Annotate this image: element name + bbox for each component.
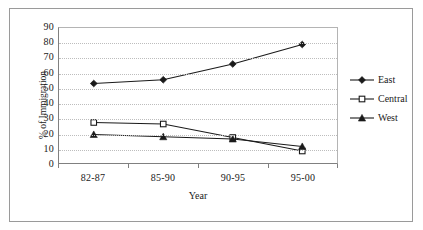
x-tick-label: 82-87 [58, 172, 128, 183]
data-point-marker [91, 120, 97, 126]
legend-label: West [376, 112, 398, 123]
x-tick-mark [268, 164, 269, 168]
data-point-marker [160, 76, 167, 83]
y-tick-label: 60 [14, 68, 54, 78]
y-tick-label: 20 [14, 129, 54, 139]
chart-figure: % of Immigration 9080706050403020100 82-… [0, 0, 423, 230]
y-tick-label: 30 [14, 113, 54, 123]
gridline [59, 89, 337, 90]
y-tick-label: 0 [14, 159, 54, 169]
x-axis-tick-labels: 82-8785-9090-9595-00 [58, 172, 338, 186]
filled-triangle-icon [348, 111, 376, 125]
legend-label: Central [376, 93, 407, 104]
gridline [59, 135, 337, 136]
gridline [59, 104, 337, 105]
series-line [94, 45, 303, 84]
data-point-marker [90, 80, 97, 87]
series-central [91, 120, 305, 154]
x-tick-mark [58, 164, 59, 168]
data-point-marker [160, 121, 166, 127]
y-tick-label: 70 [14, 52, 54, 62]
gridline [59, 58, 337, 59]
gridline [59, 150, 337, 151]
legend-item-east[interactable]: East [348, 70, 412, 89]
series-line [94, 123, 303, 152]
open-square-icon [348, 92, 376, 106]
plot-area [58, 27, 338, 164]
legend-item-west[interactable]: West [348, 108, 412, 127]
x-tick-mark [337, 164, 338, 168]
x-tick-mark [128, 164, 129, 168]
data-point-marker [299, 41, 306, 48]
y-tick-label: 10 [14, 144, 54, 154]
gridline [59, 119, 337, 120]
series-canvas [59, 28, 337, 163]
y-tick-label: 50 [14, 83, 54, 93]
filled-diamond-icon [348, 73, 376, 87]
y-tick-label: 80 [14, 37, 54, 47]
y-axis-tick-labels: 9080706050403020100 [12, 27, 54, 164]
legend-label: East [376, 74, 395, 85]
x-axis-ticks [58, 164, 338, 169]
data-point-marker [229, 61, 236, 68]
legend-item-central[interactable]: Central [348, 89, 412, 108]
x-tick-label: 90-95 [198, 172, 268, 183]
x-axis-title: Year [58, 190, 338, 201]
y-tick-label: 90 [14, 22, 54, 32]
x-tick-mark [198, 164, 199, 168]
x-tick-label: 95-00 [268, 172, 338, 183]
gridline [59, 43, 337, 44]
gridline [59, 74, 337, 75]
chart-legend: EastCentralWest [348, 70, 412, 127]
y-tick-label: 40 [14, 98, 54, 108]
series-east [90, 41, 305, 87]
x-tick-label: 85-90 [128, 172, 198, 183]
